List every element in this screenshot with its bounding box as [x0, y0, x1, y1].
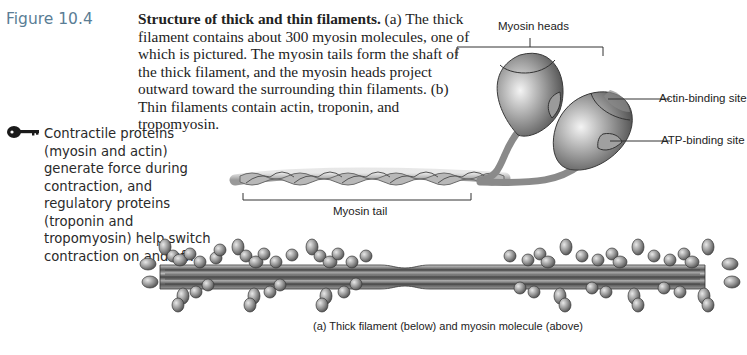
- myosin-head-1: [497, 53, 563, 136]
- subfigure-caption: (a) Thick filament (below) and myosin mo…: [313, 320, 583, 332]
- thick-filament: [160, 265, 705, 289]
- myosin-tail-label: Myosin tail: [333, 205, 387, 217]
- myosin-tail-bracket: [243, 193, 471, 200]
- myosin-head-2: [553, 90, 632, 170]
- actin-binding-site-label: Actin-binding site: [659, 92, 747, 104]
- myosin-heads-label: Myosin heads: [498, 20, 569, 32]
- myosin-tail-shape: [235, 172, 505, 185]
- atp-binding-site-label: ATP-binding site: [661, 134, 745, 146]
